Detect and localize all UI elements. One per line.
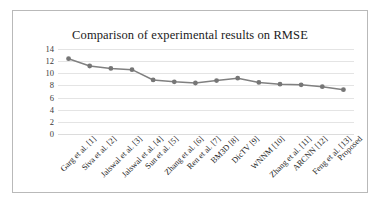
x-axis-tick-labels: Garg et al. [1]Siva et al. [2]Jaiswal et… bbox=[58, 135, 354, 193]
data-point-marker bbox=[299, 82, 304, 87]
data-point-marker bbox=[172, 79, 177, 84]
y-tick-label-14: 14 bbox=[46, 44, 55, 54]
data-point-marker bbox=[214, 78, 219, 83]
rmse-line-series bbox=[58, 49, 354, 134]
chart-figure: Comparison of experimental results on RM… bbox=[12, 10, 368, 193]
y-tick-label-4: 4 bbox=[50, 105, 54, 115]
y-tick-label-8: 8 bbox=[50, 80, 54, 90]
y-tick-label-10: 10 bbox=[46, 68, 55, 78]
data-point-marker bbox=[341, 87, 346, 92]
data-point-marker bbox=[320, 84, 325, 89]
data-point-marker bbox=[193, 81, 198, 86]
data-point-marker bbox=[66, 56, 71, 61]
data-point-marker bbox=[278, 82, 283, 87]
y-tick-label-12: 12 bbox=[46, 56, 55, 66]
y-tick-label-6: 6 bbox=[50, 93, 54, 103]
data-point-marker bbox=[256, 80, 261, 85]
y-tick-label-2: 2 bbox=[50, 117, 54, 127]
y-tick-label-0: 0 bbox=[50, 129, 54, 139]
data-point-marker bbox=[108, 66, 113, 71]
data-point-marker bbox=[235, 76, 240, 81]
data-point-marker bbox=[151, 78, 156, 83]
chart-title: Comparison of experimental results on RM… bbox=[13, 28, 367, 43]
plot-area: 02468101214 bbox=[58, 49, 354, 134]
data-point-marker bbox=[130, 67, 135, 72]
data-point-marker bbox=[87, 64, 92, 69]
